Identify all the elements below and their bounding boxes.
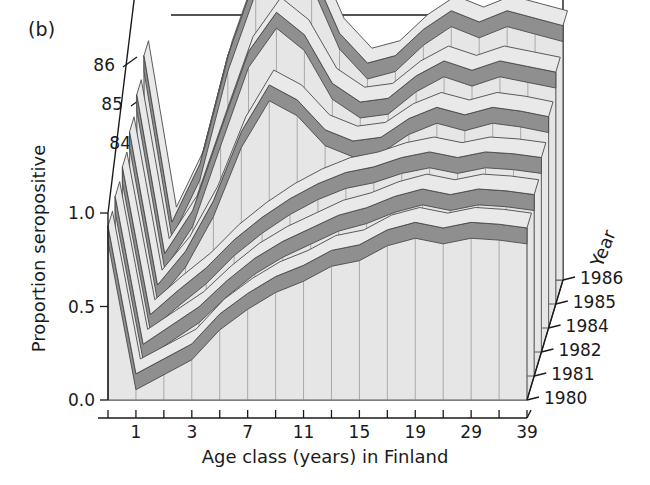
- depth-tick-left-84: 84: [109, 133, 131, 153]
- y-tick-1.0: 1.0: [68, 203, 95, 223]
- year-tick-1981: 1981: [551, 364, 594, 384]
- y-tick-0.0: 0.0: [68, 390, 95, 410]
- y-axis-title: Proportion seropositive: [28, 119, 49, 379]
- x-tick-39: 39: [516, 422, 538, 442]
- chart-canvas: 8485860.00.51.01371115192939198019811982…: [0, 0, 650, 485]
- x-tick-15: 15: [349, 422, 371, 442]
- x-tick-19: 19: [404, 422, 426, 442]
- x-tick-1: 1: [131, 422, 142, 442]
- x-tick-7: 7: [242, 422, 253, 442]
- year-tick-1986: 1986: [580, 268, 623, 288]
- y-tick-0.5: 0.5: [68, 297, 95, 317]
- depth-tick-mark-left-86: [123, 57, 137, 67]
- x-tick-29: 29: [460, 422, 482, 442]
- x-tick-3: 3: [186, 422, 197, 442]
- year-tick-1982: 1982: [558, 340, 601, 360]
- year-tick-1985: 1985: [573, 292, 616, 312]
- year-tick-1984: 1984: [566, 316, 609, 336]
- x-tick-11: 11: [293, 422, 315, 442]
- year-tick-1980: 1980: [544, 388, 587, 408]
- x-axis-title: Age class (years) in Finland: [0, 446, 650, 467]
- y-axis: 0.00.51.0: [68, 203, 108, 410]
- x-axis: 1371115192939: [98, 410, 538, 442]
- figure-panel: (b) 8485860.00.51.0137111519293919801981…: [0, 0, 650, 485]
- depth-tick-left-85: 85: [101, 94, 123, 114]
- depth-tick-left-86: 86: [93, 55, 115, 75]
